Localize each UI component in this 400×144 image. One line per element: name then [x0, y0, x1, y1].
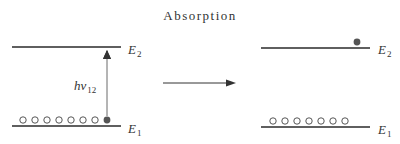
open-atom-circle [270, 118, 276, 124]
open-atom-circle [44, 117, 50, 123]
open-atom-circle [282, 118, 288, 124]
open-atom-circle [92, 117, 98, 123]
left-lower-level-label: E1 [127, 121, 141, 138]
open-atom-circle [56, 117, 62, 123]
right-panel: E2 E1 [261, 39, 391, 139]
open-atom-circle [294, 118, 300, 124]
absorption-diagram: Absorption E2 E1 hν12 E2 E1 [0, 0, 400, 144]
open-atom-circle [32, 117, 38, 123]
open-atom-circle [318, 118, 324, 124]
open-atom-circle [330, 118, 336, 124]
diagram-title: Absorption [163, 8, 237, 23]
excited-atom-dot [354, 39, 361, 46]
transition-arrow-icon [163, 80, 236, 87]
left-panel: E2 E1 hν12 [12, 42, 141, 138]
photon-energy-label: hν12 [74, 78, 96, 95]
left-upper-level-label: E2 [127, 42, 141, 59]
right-upper-level-label: E2 [377, 42, 391, 59]
right-ground-state-atoms [270, 118, 348, 124]
right-lower-level-label: E1 [377, 122, 391, 139]
open-atom-circle [342, 118, 348, 124]
open-atom-circle [306, 118, 312, 124]
filled-atom-dot [104, 117, 111, 124]
left-ground-state-atoms [20, 117, 98, 123]
open-atom-circle [68, 117, 74, 123]
open-atom-circle [20, 117, 26, 123]
arrowhead-icon [103, 50, 111, 59]
open-atom-circle [80, 117, 86, 123]
